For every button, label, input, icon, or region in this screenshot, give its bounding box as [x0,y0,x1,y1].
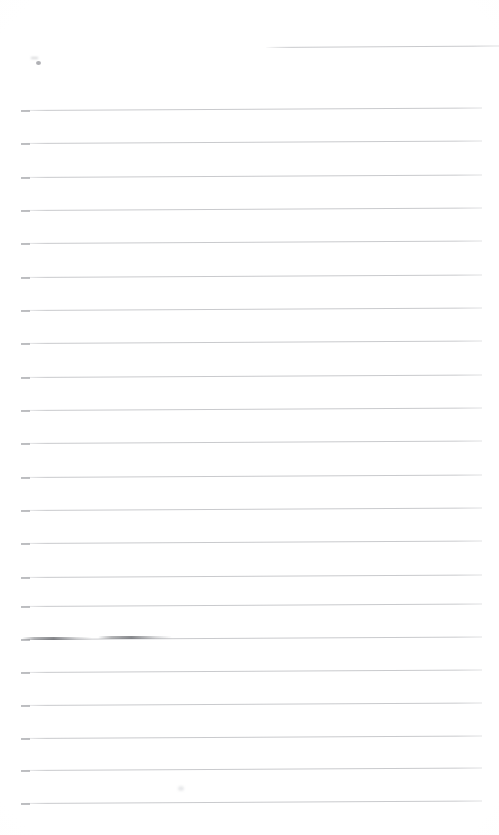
ruled-line-cap [21,704,30,706]
ruled-line [21,507,482,511]
ruled-line-cap [21,509,30,511]
ruled-line [21,207,482,211]
ruled-line-cap [21,737,30,739]
ruled-line [21,474,482,478]
ruled-line [21,174,482,178]
ruled-line-cap [21,605,30,607]
ruled-line-cap [21,309,30,311]
speck-mark [178,786,184,791]
ruled-line-cap [21,476,30,478]
ruled-line [21,440,482,444]
ruled-line [21,274,482,278]
ruled-line [21,735,482,739]
ruled-line [21,540,482,544]
ruled-line-cap [21,242,30,244]
ruled-line-cap [21,671,30,673]
ruled-line-cap [21,638,30,640]
ruled-line-cap [21,209,30,211]
ruled-line-cap [21,276,30,278]
ruled-line [21,307,482,311]
ruled-line-cap [21,769,30,771]
pencil-dot-mark [36,61,41,65]
ruled-line-cap [21,376,30,378]
ruled-line [21,407,482,411]
ruled-line-cap [21,142,30,144]
ruled-line [21,702,482,706]
ruled-line [21,603,482,607]
ruled-line-cap [21,109,30,111]
pencil-tick-mark [31,57,38,59]
ruled-line [21,636,482,640]
ruled-line [21,669,482,673]
ruled-line [21,767,482,771]
ruled-line [21,800,482,804]
scanned-page [0,0,499,835]
ruled-line-cap [21,542,30,544]
ruled-line-cap [21,576,30,578]
ruled-line-cap [21,342,30,344]
ruled-line [21,107,482,111]
ruled-line-cap [21,409,30,411]
ruled-line [21,574,482,578]
ruled-line-cap [21,802,30,804]
paper-texture-overlay [0,0,499,835]
ruled-line [21,340,482,344]
ruled-line [266,46,499,48]
ruled-line-cap [21,442,30,444]
ruled-line [21,140,482,144]
ruled-line-cap [21,176,30,178]
ruled-line [21,240,482,244]
ruled-line [21,374,482,378]
